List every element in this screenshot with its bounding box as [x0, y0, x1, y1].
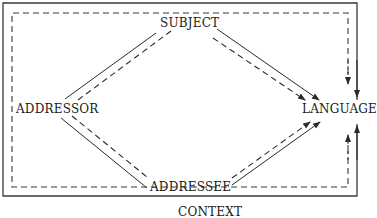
- node-language: LANGUAGE: [302, 103, 377, 115]
- outer-context-frame: [3, 3, 357, 196]
- inner-context-frame: [12, 13, 348, 187]
- edge-addressor-subject-solid: [65, 33, 156, 99]
- edge-addressor-addressee-dashed: [72, 116, 147, 177]
- edge-subject-language-solid: [217, 29, 319, 100]
- node-context: CONTEXT: [178, 206, 242, 218]
- edge-addressee-language-solid: [232, 122, 320, 185]
- edge-addressor-subject-dashed: [78, 31, 171, 100]
- node-addressor: ADDRESSOR: [16, 103, 99, 115]
- edge-addressee-language-dashed: [232, 122, 310, 178]
- node-subject: SUBJECT: [160, 17, 219, 29]
- node-addressee: ADDRESSEE: [150, 181, 231, 193]
- edge-subject-language-dashed: [213, 38, 305, 100]
- edge-addressor-addressee-solid: [61, 118, 147, 188]
